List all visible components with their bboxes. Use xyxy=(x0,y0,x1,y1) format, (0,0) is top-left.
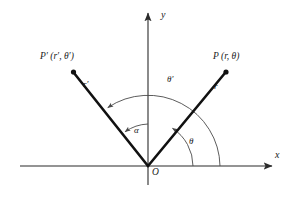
radius-label-r: r xyxy=(214,82,218,91)
angle-label-alpha: α xyxy=(134,126,139,135)
arc-group xyxy=(108,95,220,166)
theta-prime-arc xyxy=(108,95,220,166)
origin-label: O xyxy=(152,168,159,178)
axis-group xyxy=(20,13,272,185)
x-axis-label: x xyxy=(275,150,279,160)
angle-label-theta-prime: θ′ xyxy=(167,75,173,84)
point-dot-group xyxy=(71,69,229,74)
y-axis-label: y xyxy=(161,10,165,20)
point-dot-p-prime xyxy=(71,69,76,74)
point-label-p-prime: P′ (r′, θ′) xyxy=(40,52,74,62)
diagram-canvas xyxy=(0,0,297,205)
point-dot-p xyxy=(223,69,228,74)
polar-coordinates-figure: y x O P′ (r′, θ′) P (r, θ) r′ r θ′ θ α xyxy=(0,0,297,205)
point-label-p: P (r, θ) xyxy=(213,52,239,62)
radius-label-r-prime: r′ xyxy=(83,80,88,89)
angle-label-theta: θ xyxy=(189,137,193,146)
